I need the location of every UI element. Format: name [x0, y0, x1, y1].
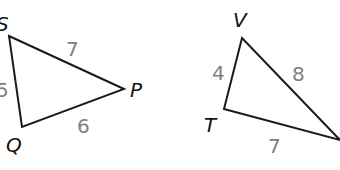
triangles-diagram: S P Q 7 5 6 V T 4 8 7	[0, 0, 340, 170]
triangle-vt: V T 4 8 7	[204, 8, 340, 158]
vertex-label-s: S	[0, 12, 9, 36]
triangle-vt-outline	[224, 38, 340, 140]
vertex-label-t: T	[204, 113, 218, 137]
vertex-label-q: Q	[6, 133, 22, 157]
vertex-label-p: P	[130, 78, 143, 102]
side-length-v-third: 8	[292, 62, 305, 86]
side-length-t-third: 7	[268, 134, 281, 158]
side-length-qp: 6	[77, 114, 90, 138]
side-length-sp: 7	[66, 37, 79, 61]
side-length-sq: 5	[0, 78, 9, 102]
vertex-label-v: V	[233, 8, 248, 32]
side-length-vt: 4	[212, 61, 225, 85]
triangle-spq: S P Q 7 5 6	[0, 12, 143, 157]
